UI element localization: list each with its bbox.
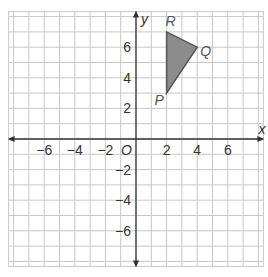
x-tick-label: −4: [67, 142, 83, 158]
x-axis-label: x: [257, 121, 266, 137]
y-tick-label: 2: [123, 100, 131, 116]
origin-label: O: [121, 142, 132, 158]
vertex-label-p: P: [155, 92, 165, 108]
y-tick-label: −6: [115, 223, 131, 239]
x-tick-label: 2: [163, 142, 171, 158]
vertex-label-r: R: [166, 13, 176, 29]
coordinate-plane: xyO−6−4−2246642−2−4−6PQR: [0, 0, 268, 277]
y-tick-label: −2: [115, 162, 131, 178]
x-tick-label: 6: [224, 142, 232, 158]
y-tick-label: −4: [115, 192, 131, 208]
y-axis-label: y: [140, 11, 149, 27]
vertex-label-q: Q: [200, 43, 211, 59]
x-tick-label: −6: [36, 142, 52, 158]
y-tick-label: 6: [123, 39, 131, 55]
x-tick-label: 4: [193, 142, 201, 158]
x-tick-label: −2: [97, 142, 113, 158]
y-tick-label: 4: [123, 70, 131, 86]
